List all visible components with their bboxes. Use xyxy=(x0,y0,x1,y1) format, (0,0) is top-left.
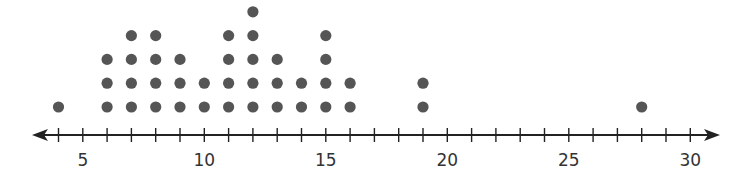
data-dot xyxy=(223,101,234,112)
data-dot xyxy=(174,101,185,112)
data-dot xyxy=(636,101,647,112)
data-dot xyxy=(320,30,331,41)
data-dot xyxy=(272,54,283,65)
data-dot xyxy=(199,78,210,89)
data-dot xyxy=(247,6,258,17)
tick-label: 15 xyxy=(315,150,337,170)
data-dot xyxy=(126,101,137,112)
data-dot xyxy=(126,78,137,89)
data-dot xyxy=(150,78,161,89)
data-dot xyxy=(417,101,428,112)
data-dot xyxy=(174,78,185,89)
data-dot xyxy=(247,54,258,65)
axis-tick-labels: 51015202530 xyxy=(77,150,701,170)
data-dot xyxy=(102,54,113,65)
data-dot xyxy=(272,78,283,89)
data-dot xyxy=(102,78,113,89)
data-dot xyxy=(150,30,161,41)
tick-label: 30 xyxy=(679,150,701,170)
tick-label: 5 xyxy=(77,150,88,170)
data-dot xyxy=(53,101,64,112)
data-dot xyxy=(174,54,185,65)
data-dot xyxy=(296,78,307,89)
data-dot xyxy=(150,101,161,112)
data-dot xyxy=(345,78,356,89)
tick-label: 25 xyxy=(558,150,580,170)
data-dot xyxy=(320,101,331,112)
data-dot xyxy=(102,101,113,112)
data-dot xyxy=(320,54,331,65)
dot-series xyxy=(53,6,647,112)
data-dot xyxy=(223,54,234,65)
data-dot xyxy=(126,54,137,65)
tick-label: 20 xyxy=(436,150,458,170)
data-dot xyxy=(417,78,428,89)
data-dot xyxy=(247,30,258,41)
data-dot xyxy=(126,30,137,41)
data-dot xyxy=(150,54,161,65)
tick-label: 10 xyxy=(193,150,215,170)
data-dot xyxy=(345,101,356,112)
dot-plot: 51015202530 xyxy=(0,0,740,190)
data-dot xyxy=(320,78,331,89)
data-dot xyxy=(272,101,283,112)
data-dot xyxy=(247,101,258,112)
data-dot xyxy=(247,78,258,89)
data-dot xyxy=(296,101,307,112)
data-dot xyxy=(223,78,234,89)
number-line-axis: 51015202530 xyxy=(32,128,720,170)
data-dot xyxy=(199,101,210,112)
data-dot xyxy=(223,30,234,41)
